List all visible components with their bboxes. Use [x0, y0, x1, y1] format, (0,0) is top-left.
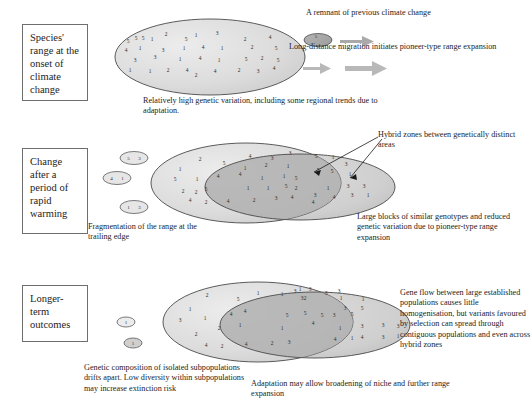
genotype-number: 5 [245, 56, 248, 62]
range-expansion-arrow-small-icon [303, 63, 331, 74]
genotype-number: 5 [174, 176, 177, 182]
genotype-number: 1 [362, 296, 365, 302]
genotype-number: 3 [347, 183, 350, 189]
genotype-number: 1 [179, 166, 182, 172]
genotype-number: 1 [299, 286, 302, 292]
genotype-number: 3 [314, 192, 317, 198]
genotype-number: 5 [315, 153, 318, 159]
genotype-number: 1 [218, 57, 221, 63]
genotype-number: 4 [202, 44, 205, 50]
genotype-number: 4 [239, 171, 242, 177]
stage-label-box-rapid-warming: Change after a period of rapid warming [22, 148, 88, 234]
genotype-number: 4 [189, 197, 192, 203]
genotype-number: 1 [247, 185, 250, 191]
genotype-number: 5 [237, 296, 240, 302]
genotype-number: 3 [382, 322, 385, 328]
genotype-number: 1 [327, 185, 330, 191]
genotype-number: 2 [238, 67, 241, 73]
genotype-number: 3 [333, 312, 336, 318]
genotype-number: 1 [351, 335, 354, 341]
genotype-number: 3 [216, 30, 219, 36]
annotation-adaptation: Adaptation may allow broadening of niche… [251, 379, 471, 400]
genotype-number: 2 [195, 331, 198, 337]
stage-label-box-onset: Species' range at the onset of climate c… [22, 24, 88, 101]
stage3-isolated-ellipses [117, 317, 142, 348]
genotype-number: 2 [251, 44, 254, 50]
genotype-number: 5 [277, 57, 280, 63]
genotype-number: 1 [239, 322, 242, 328]
genotype-number: 4 [269, 34, 272, 40]
genotype-number: 5 [223, 160, 226, 166]
genotype-number: 1 [244, 165, 247, 171]
genotype-number: 2 [195, 72, 198, 78]
genotype-number: 4 [249, 153, 252, 159]
genotype-number: 3 [275, 195, 278, 201]
genotype-number: 2 [253, 197, 256, 203]
genotype-number: 1 [189, 306, 192, 312]
annotation-gene-flow: Gene flow between large established popu… [400, 288, 531, 350]
genotype-number: 1 [149, 68, 152, 74]
genotype-number: 1 [204, 315, 207, 321]
annotation-large-blocks: Large blocks of similar genotypes and re… [357, 212, 531, 243]
genotype-number: 2 [195, 189, 198, 195]
genotype-number: 3 [363, 183, 366, 189]
genotype-number: 1 [261, 175, 264, 181]
genotype-number: 4 [125, 47, 128, 53]
genotype-number: 4 [227, 198, 230, 204]
genotype-number: 1 [139, 45, 142, 51]
genotype-number: 3 [325, 290, 328, 296]
genotype-number: 5 [205, 186, 208, 192]
genotype-number: 1 [281, 325, 284, 331]
genotype-number: 1 [281, 291, 284, 297]
genotype-number: 4 [205, 342, 208, 348]
stage2-fragment-ellipses [103, 152, 148, 214]
genotype-number: 1 [129, 67, 132, 73]
genotype-number: 3 [351, 192, 354, 198]
genotype-number: 5 [285, 183, 288, 189]
genotype-number: 5 [304, 310, 307, 316]
genotype-number: 5 [331, 168, 334, 174]
genotype-number: 4 [312, 199, 315, 205]
genotype-number: 5 [185, 36, 188, 42]
stage-label-text: Longer-term outcomes [30, 293, 70, 330]
genotype-number: 1 [367, 192, 370, 198]
stage-label-text: Change after a period of rapid warming [30, 156, 68, 219]
genotype-number: 1 [196, 176, 199, 182]
genotype-number: 4 [334, 336, 337, 342]
caption-genetic-variation: Relatively high genetic variation, inclu… [143, 96, 403, 117]
genotype-number: 5 [295, 175, 298, 181]
genotype-number: 1 [195, 32, 198, 38]
genotype-number: 3 [162, 47, 165, 53]
genotype-number: 2 [261, 55, 264, 61]
genotype-number: 2 [244, 36, 247, 42]
climate-range-diagram: 55512513244131412533141525112424234 5 53… [0, 0, 531, 418]
genotype-number: 3 [134, 57, 137, 63]
genotype-number: 4 [244, 308, 247, 314]
genotype-number: 3 [289, 150, 292, 156]
genotype-number: 2 [182, 188, 185, 194]
genotype-number: 4 [361, 334, 364, 340]
genotype-number: 2 [271, 340, 274, 346]
genotype-number: 5 [286, 312, 289, 318]
genotype-number: 4 [273, 65, 276, 71]
genotype-number: 3 [301, 295, 304, 301]
genotype-number: 2 [295, 185, 298, 191]
genotype-number: 1 [287, 163, 290, 169]
genotype-number: 3 [179, 317, 182, 323]
genotype-number: 1 [267, 185, 270, 191]
genotype-number: 4 [245, 341, 248, 347]
genotype-number: 1 [221, 45, 224, 51]
genotype-number: 5 [275, 45, 278, 51]
annotation-long-distance-migration: Long-distance migration initiates pionee… [289, 42, 531, 52]
annotation-remnant: A remnant of previous climate change [306, 8, 526, 18]
genotype-number: 5 [351, 311, 354, 317]
genotype-number: 3 [154, 54, 157, 60]
genotype-number: 3 [361, 323, 364, 329]
genotype-number: 4 [214, 68, 217, 74]
genotype-number: 2 [165, 31, 168, 37]
genotype-number: 5 [321, 312, 324, 318]
annotation-hybrid-zones: Hybrid zones between genetically distinc… [378, 130, 528, 151]
genotype-number: 3 [288, 339, 291, 345]
genotype-number: 1 [340, 295, 343, 301]
genotype-number: 2 [265, 162, 268, 168]
